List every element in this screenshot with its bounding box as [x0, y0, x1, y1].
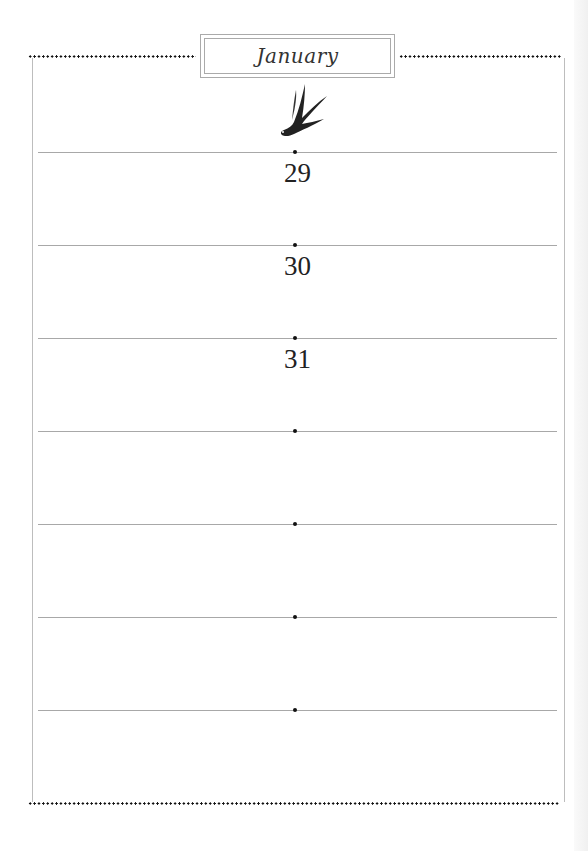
day-number: 31 [38, 344, 557, 375]
center-dot-icon [293, 615, 297, 619]
day-row [38, 431, 557, 524]
top-dotted-border-left [28, 55, 196, 58]
center-dot-icon [293, 708, 297, 712]
day-separator-rule [38, 431, 557, 432]
day-separator-rule [38, 710, 557, 711]
swallow-bird-icon [272, 82, 332, 140]
day-row [38, 617, 557, 710]
top-dotted-border-right [399, 55, 561, 58]
day-separator-rule [38, 152, 557, 153]
left-frame-rule [32, 58, 33, 802]
day-number: 30 [38, 251, 557, 282]
month-title-box: January [200, 34, 395, 78]
center-dot-icon [293, 336, 297, 340]
day-row: 31 [38, 338, 557, 431]
page-edge-shadow [574, 0, 588, 851]
day-row [38, 710, 557, 803]
month-title: January [257, 44, 339, 68]
center-dot-icon [293, 150, 297, 154]
day-separator-rule [38, 245, 557, 246]
center-dot-icon [293, 522, 297, 526]
day-row [38, 524, 557, 617]
month-title-inner-frame: January [204, 38, 391, 74]
day-separator-rule [38, 617, 557, 618]
center-dot-icon [293, 243, 297, 247]
day-row: 30 [38, 245, 557, 338]
right-frame-rule [564, 58, 565, 802]
day-number: 29 [38, 158, 557, 189]
day-separator-rule [38, 524, 557, 525]
day-row: 29 [38, 152, 557, 245]
center-dot-icon [293, 429, 297, 433]
day-separator-rule [38, 338, 557, 339]
